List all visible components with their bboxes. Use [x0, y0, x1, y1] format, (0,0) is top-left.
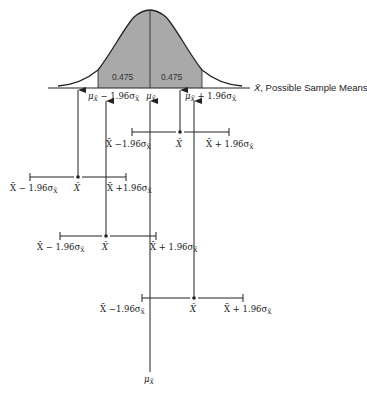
confidence-interval-diagram: 0.475 0.475 X̄, Possible Sample Means μX… — [0, 0, 367, 393]
interval-1: X̄ −1.96σX̄ X̄ X̄ + 1.96σX̄ — [106, 128, 254, 150]
area-label-left: 0.475 — [112, 72, 134, 82]
axis-label-text: , Possible Sample Means — [260, 82, 367, 93]
axis-mark-upper: μX̄ + 1.96σX̄ — [185, 91, 237, 102]
interval-3-lower-label: X̄ − 1.96σX̄ — [37, 241, 85, 253]
interval-1-lower-label: X̄ −1.96σX̄ — [106, 138, 152, 150]
interval-2-mean-label: X̄ — [73, 182, 81, 193]
population-mean-label: μX̄ — [144, 374, 155, 385]
interval-2-lower-label: X̄ − 1.96σX̄ — [10, 182, 58, 194]
axis-label: X̄, Possible Sample Means — [253, 82, 367, 93]
interval-4: X̄ −1.96σX̄ X̄ X̄ + 1.96σX̄ — [100, 294, 272, 315]
sample-mean-dot — [178, 130, 182, 134]
interval-4-lower-label: X̄ −1.96σX̄ — [100, 303, 146, 315]
sample-mean-dot — [192, 296, 196, 300]
axis-mark-center: μX̄ — [146, 91, 157, 102]
sample-mean-dot — [104, 234, 108, 238]
interval-1-mean-label: X̄ — [175, 138, 183, 149]
axis-mark-lower: μX̄ − 1.96σX̄ — [88, 91, 140, 102]
area-label-right: 0.475 — [161, 72, 183, 82]
interval-4-upper-label: X̄ + 1.96σX̄ — [224, 303, 272, 315]
interval-1-upper-label: X̄ + 1.96σX̄ — [206, 138, 254, 150]
interval-2: X̄ − 1.96σX̄ X̄ X̄ +1.96σX̄ — [10, 173, 153, 194]
interval-4-mean-label: X̄ — [189, 303, 197, 314]
sample-mean-dot — [76, 175, 80, 179]
interval-3: X̄ − 1.96σX̄ X̄ X̄ + 1.96σX̄ — [37, 232, 198, 253]
interval-3-mean-label: X̄ — [101, 241, 109, 252]
interval-2-upper-label: X̄ +1.96σX̄ — [107, 182, 153, 194]
interval-3-upper-label: X̄ + 1.96σX̄ — [150, 241, 198, 253]
